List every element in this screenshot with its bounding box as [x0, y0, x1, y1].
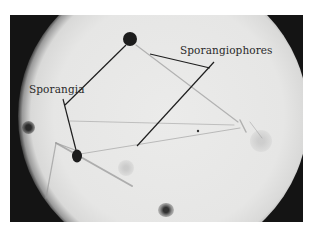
- hyphae: [46, 45, 262, 198]
- sporangia-leader-top: [65, 45, 126, 105]
- sporangium-lower: [72, 150, 82, 163]
- label-sporangia: Sporangia: [29, 83, 85, 95]
- annotation-overlay: [0, 0, 315, 235]
- leader-lines: [63, 45, 214, 150]
- label-sporangiophores: Sporangiophores: [180, 44, 273, 56]
- sporangia-leader-lower: [63, 99, 76, 150]
- sporangium-top: [123, 32, 137, 46]
- sporangiophores-leader-left: [150, 54, 210, 68]
- debris-dot: [197, 130, 199, 132]
